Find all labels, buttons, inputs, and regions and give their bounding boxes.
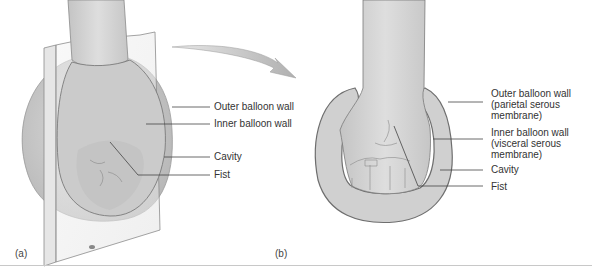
- bottom-divider: [0, 265, 592, 266]
- panel-label-a: (a): [15, 248, 27, 259]
- label-fist-a: Fist: [214, 169, 230, 180]
- label-fist-b: Fist: [491, 181, 507, 192]
- panel-b-illustration: [315, 0, 483, 223]
- label-cavity-b: Cavity: [491, 164, 519, 175]
- label-inner-balloon-wall-b: Inner balloon wall (visceral serous memb…: [491, 127, 569, 160]
- panel-label-b: (b): [275, 248, 287, 259]
- curved-arrow: [172, 45, 296, 78]
- glass-plate: [44, 45, 56, 266]
- label-cavity-a: Cavity: [214, 151, 242, 162]
- label-outer-balloon-wall-a: Outer balloon wall: [214, 101, 294, 112]
- label-outer-balloon-wall-b: Outer balloon wall (parietal serous memb…: [491, 88, 571, 121]
- panel-a-illustration: [22, 0, 210, 266]
- label-inner-balloon-wall-a: Inner balloon wall: [214, 118, 292, 129]
- arm: [68, 0, 128, 68]
